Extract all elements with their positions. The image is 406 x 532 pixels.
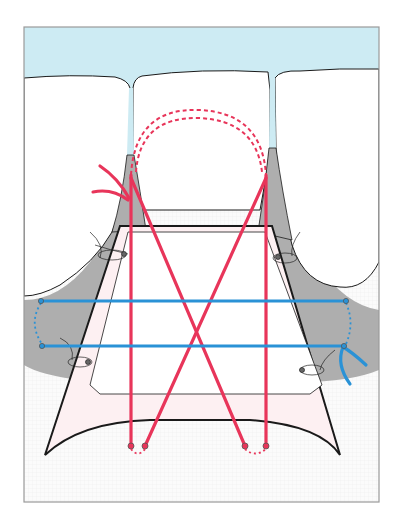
dental-suture-diagram bbox=[0, 0, 406, 532]
right-interdental-gap bbox=[269, 72, 276, 148]
central-tooth bbox=[133, 71, 270, 210]
